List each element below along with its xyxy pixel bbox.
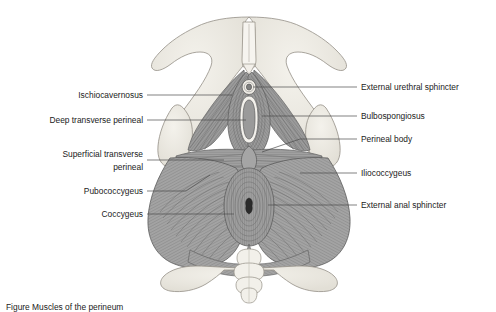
urethral-orifice — [246, 84, 251, 90]
label-iliococcygeus: Iliococcygeus — [361, 168, 411, 178]
label-external-anal-sphincter: External anal sphincter — [361, 200, 446, 210]
label-ischiocavernosus: Ischiocavernosus — [78, 90, 143, 100]
label-superficial-transverse-perineal-line1: Superficial transverse — [62, 149, 143, 159]
label-bulbospongiosus: Bulbospongiosus — [361, 111, 425, 121]
label-coccygeus: Coccygeus — [102, 209, 143, 219]
perineum-illustration: Ischiocavernosus Deep transverse perinea… — [0, 0, 496, 312]
figure-caption: Figure Muscles of the perineum — [6, 302, 123, 312]
vaginal-canal-lumen — [243, 100, 255, 139]
label-perineal-body: Perineal body — [361, 134, 413, 144]
anal-orifice — [246, 198, 253, 214]
anatomy-figure: Ischiocavernosus Deep transverse perinea… — [0, 0, 496, 312]
label-external-urethral-sphincter: External urethral sphincter — [361, 82, 459, 92]
label-deep-transverse-perineal: Deep transverse perineal — [49, 115, 143, 125]
label-pubococcygeus: Pubococcygeus — [84, 186, 143, 196]
label-superficial-transverse-perineal-line2: perineal — [113, 162, 143, 172]
